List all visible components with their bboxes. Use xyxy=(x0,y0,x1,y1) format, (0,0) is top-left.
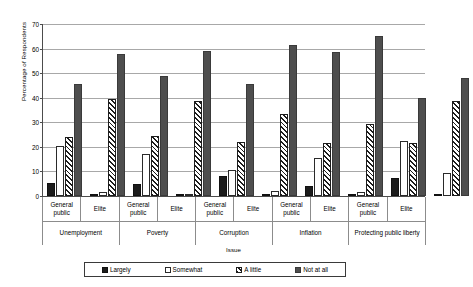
bar-alittle xyxy=(151,136,159,196)
audience-tick-label: Elite xyxy=(80,197,118,221)
bar-notatall xyxy=(74,84,82,196)
bar-somewhat xyxy=(357,192,365,196)
issue-group xyxy=(129,24,215,196)
bar-alittle xyxy=(65,137,73,196)
legend-swatch-largely xyxy=(102,267,108,273)
bar-largely xyxy=(305,186,313,196)
bar-notatall xyxy=(332,52,340,196)
bar-somewhat xyxy=(314,158,322,196)
category-axis-band: General publicEliteUnemploymentGeneral p… xyxy=(42,197,426,245)
audience-label-row: General publicElite xyxy=(273,197,349,222)
audience-label-row: General publicElite xyxy=(43,197,119,222)
bar-alittle xyxy=(194,101,202,196)
issue-tick-label: Corruption xyxy=(196,222,272,246)
bar-alittle xyxy=(366,124,374,196)
bar-alittle xyxy=(323,143,331,196)
bar-somewhat xyxy=(228,170,236,196)
bar-alittle xyxy=(409,143,417,196)
legend-label: Somewhat xyxy=(173,266,203,273)
bar-series-container xyxy=(43,24,425,196)
chart-legend: LargelySomewhatA littleNot at all xyxy=(84,262,346,277)
issue-tick-label: Poverty xyxy=(120,222,196,246)
audience-tick-label: Elite xyxy=(233,197,271,221)
legend-entry: Somewhat xyxy=(165,266,203,273)
issue-tick-label: Unemployment xyxy=(43,222,119,246)
y-tick-label: 20 xyxy=(32,143,39,150)
bar-largely xyxy=(90,194,98,196)
bar-alittle xyxy=(108,99,116,196)
issue-axis-cell: General publicEliteUnemployment xyxy=(42,197,119,245)
bar-alittle xyxy=(452,101,460,196)
issue-group xyxy=(43,24,129,196)
bar-somewhat xyxy=(271,191,279,196)
bar-somewhat xyxy=(99,192,107,196)
legend-swatch-somewhat xyxy=(165,267,171,273)
audience-bar-cluster xyxy=(430,24,473,196)
y-tick-label: 70 xyxy=(32,21,39,28)
audience-bar-cluster xyxy=(258,24,301,196)
bar-notatall xyxy=(418,98,426,196)
audience-bar-cluster xyxy=(301,24,344,196)
legend-label: Largely xyxy=(110,266,131,273)
audience-tick-label: Elite xyxy=(157,197,195,221)
bar-largely xyxy=(176,194,184,196)
issue-tick-label: Protecting public liberty xyxy=(349,222,425,246)
audience-tick-label: Elite xyxy=(387,197,425,221)
bar-alittle xyxy=(280,114,288,196)
bar-notatall xyxy=(203,51,211,196)
issue-group xyxy=(301,24,387,196)
issue-group xyxy=(215,24,301,196)
audience-bar-cluster xyxy=(129,24,172,196)
bar-somewhat xyxy=(56,146,64,196)
y-tick-label: 40 xyxy=(32,94,39,101)
audience-tick-label: Elite xyxy=(310,197,348,221)
x-axis-title: Issue xyxy=(42,246,425,253)
audience-tick-label: General public xyxy=(273,197,310,221)
audience-bar-cluster xyxy=(387,24,430,196)
plot-area: 010203040506070 xyxy=(42,24,425,197)
y-tick-label: 10 xyxy=(32,168,39,175)
legend-entry: A little xyxy=(236,266,261,273)
legend-entry: Not at all xyxy=(295,266,328,273)
issue-axis-cell: General publicEliteProtecting public lib… xyxy=(348,197,425,245)
audience-bar-cluster xyxy=(172,24,215,196)
bar-notatall xyxy=(160,76,168,196)
audience-label-row: General publicElite xyxy=(349,197,425,222)
bar-somewhat xyxy=(443,173,451,196)
y-tick-label: 0 xyxy=(35,193,39,200)
issue-group xyxy=(387,24,473,196)
audience-bar-cluster xyxy=(43,24,86,196)
y-tick-label: 60 xyxy=(32,45,39,52)
bar-largely xyxy=(133,184,141,196)
legend-swatch-notatall xyxy=(295,267,301,273)
audience-tick-label: General public xyxy=(196,197,233,221)
bar-largely xyxy=(348,194,356,196)
bar-largely xyxy=(219,176,227,196)
audience-bar-cluster xyxy=(344,24,387,196)
bar-notatall xyxy=(461,78,469,196)
bar-notatall xyxy=(289,45,297,196)
bar-largely xyxy=(47,183,55,197)
bar-somewhat xyxy=(185,194,193,196)
y-tick-label: 50 xyxy=(32,70,39,77)
bar-notatall xyxy=(375,36,383,196)
audience-label-row: General publicElite xyxy=(120,197,196,222)
legend-swatch-alittle xyxy=(236,267,242,273)
issue-tick-label: Inflation xyxy=(273,222,349,246)
audience-bar-cluster xyxy=(86,24,129,196)
bar-alittle xyxy=(237,142,245,196)
audience-tick-label: General public xyxy=(43,197,80,221)
audience-label-row: General publicElite xyxy=(196,197,272,222)
audience-tick-label: General public xyxy=(349,197,386,221)
y-axis-title: Percentage of Respondents xyxy=(20,0,27,137)
bar-largely xyxy=(434,194,442,196)
bar-largely xyxy=(262,194,270,196)
issue-axis-cell: General publicEliteCorruption xyxy=(195,197,272,245)
issue-axis-cell: General publicEliteInflation xyxy=(272,197,349,245)
bar-largely xyxy=(391,178,399,196)
legend-entry: Largely xyxy=(102,266,131,273)
bar-somewhat xyxy=(400,141,408,196)
bar-somewhat xyxy=(142,154,150,196)
legend-label: Not at all xyxy=(303,266,328,273)
